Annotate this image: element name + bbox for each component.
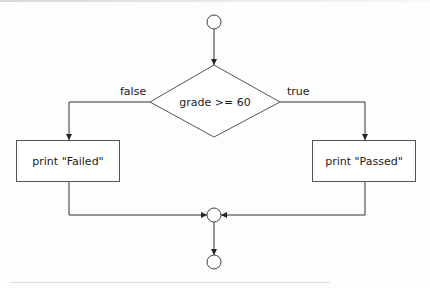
end-node	[207, 255, 221, 269]
merge-node	[207, 208, 221, 222]
passed-action-label: print "Passed"	[325, 155, 403, 168]
false-branch-label: false	[120, 85, 146, 98]
action-box-failed: print "Failed"	[17, 141, 120, 182]
true-branch-label: true	[287, 85, 310, 98]
edge-decision-to-failed	[69, 102, 150, 140]
edge-passed-to-merge	[221, 182, 365, 215]
edge-failed-to-merge	[69, 182, 207, 215]
edge-decision-to-passed	[280, 102, 365, 140]
flowchart-canvas: grade >= 60 false true print "Failed" pr…	[0, 0, 430, 288]
failed-action-label: print "Failed"	[32, 155, 103, 168]
start-node	[207, 15, 221, 29]
flowchart-diagram: grade >= 60 false true print "Failed" pr…	[0, 0, 430, 288]
action-box-passed: print "Passed"	[313, 141, 416, 182]
decision-label: grade >= 60	[179, 96, 250, 109]
decision-node: grade >= 60	[150, 65, 280, 137]
